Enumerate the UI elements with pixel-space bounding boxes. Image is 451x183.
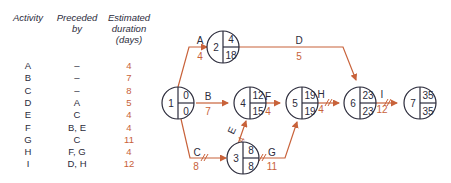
node-6-id: 6 (350, 98, 356, 109)
arrow-activity-c (181, 119, 226, 158)
activity-duration-h: 4 (318, 104, 324, 115)
event-node-3 (227, 142, 259, 174)
activity-label-g: G (268, 147, 276, 158)
node-1-latest: 0 (183, 106, 189, 117)
node-7-latest: 35 (422, 106, 434, 117)
node-5-latest: 19 (304, 106, 316, 117)
arrow-activity-g (260, 122, 297, 158)
activity-label-e: E (225, 125, 238, 136)
node-1-earliest: 0 (183, 90, 189, 101)
node-6-latest: 23 (362, 106, 374, 117)
node-4-latest: 15 (252, 106, 264, 117)
node-6-earliest: 23 (362, 90, 374, 101)
node-4-id: 4 (240, 98, 246, 109)
activity-label-a: A (197, 35, 204, 46)
activity-label-h: H (317, 89, 324, 100)
node-5-id: 5 (292, 98, 298, 109)
node-2-earliest: 4 (228, 34, 234, 45)
node-5-earliest: 19 (304, 90, 316, 101)
event-node-1 (162, 87, 194, 119)
activity-label-c: C (193, 147, 200, 158)
activity-duration-g: 11 (267, 161, 278, 172)
node-2-id: 2 (213, 42, 219, 53)
activity-label-b: B (205, 91, 212, 102)
activity-label-i: I (381, 89, 384, 100)
node-7-earliest: 35 (422, 90, 434, 101)
node-7-id: 7 (410, 98, 416, 109)
activity-label-d: D (295, 35, 302, 46)
node-2-latest: 18 (225, 50, 237, 61)
node-3-latest: 8 (248, 161, 254, 172)
activity-duration-i: 12 (376, 104, 388, 115)
activity-duration-b: 7 (205, 106, 211, 117)
activity-duration-a: 4 (197, 51, 203, 62)
node-3-id: 3 (233, 153, 239, 164)
node-4-earliest: 12 (252, 90, 264, 101)
activity-duration-f: 4 (265, 106, 271, 117)
activity-network-diagram: A 4 D 5 B 7 C 8 E 4 F 4 G 11 H 4 I 12 (0, 0, 451, 183)
node-3-earliest: 8 (248, 145, 254, 156)
activity-duration-d: 5 (296, 51, 302, 62)
node-1-id: 1 (168, 98, 174, 109)
activity-duration-c: 8 (193, 161, 199, 172)
